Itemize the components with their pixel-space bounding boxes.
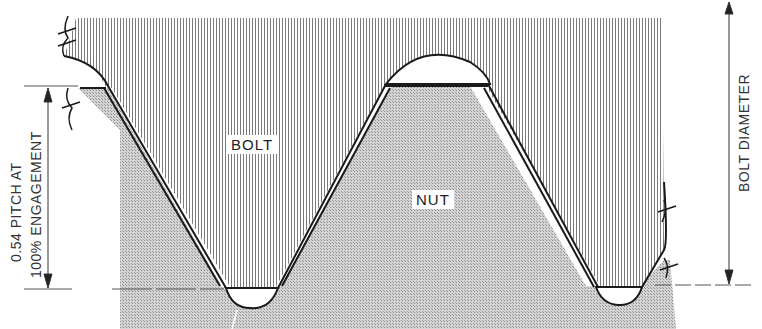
pitch-dimension-arrow — [44, 88, 52, 288]
pitch-label-line2: 100% ENGAGEMENT — [28, 131, 44, 278]
pitch-label-line1: 0.54 PITCH AT — [8, 162, 24, 262]
bolt-diameter-label: BOLT DIAMETER — [736, 74, 752, 192]
thread-diagram — [0, 0, 762, 329]
bolt-label: BOLT — [227, 135, 277, 154]
nut-label: NUT — [412, 190, 454, 209]
bolt-diameter-arrow — [725, 2, 733, 284]
